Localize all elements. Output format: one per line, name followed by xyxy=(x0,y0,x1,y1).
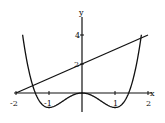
tick-label: 1 xyxy=(113,99,118,108)
x-axis-label: x xyxy=(150,89,155,98)
tick-label: -1 xyxy=(44,99,52,108)
chart: x y -2 -1 1 2 2 4 xyxy=(0,0,165,123)
tick-label: 2 xyxy=(74,60,79,69)
y-axis-label: y xyxy=(78,8,84,17)
tick-label: 4 xyxy=(75,31,80,40)
tick-label: -2 xyxy=(10,99,18,108)
tick-label: 2 xyxy=(146,99,151,108)
